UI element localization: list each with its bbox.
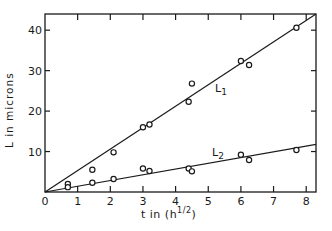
data-point-l1 [246, 62, 251, 67]
data-point-l2 [238, 152, 243, 157]
y-tick-label: 20 [28, 105, 42, 118]
x-axis-label: t in (h1/2) [141, 206, 196, 221]
data-point-l1 [186, 99, 191, 104]
data-point-l2 [246, 157, 251, 162]
x-axis-ticks: 012345678 [42, 14, 310, 208]
x-tick-label: 0 [42, 195, 49, 208]
data-point-l1 [294, 25, 299, 30]
x-tick-label: 5 [205, 195, 212, 208]
y-axis-ticks: 10203040 [28, 24, 316, 158]
y-axis-label: L in microns [3, 72, 15, 148]
data-point-l2 [111, 176, 116, 181]
x-tick-label: 8 [303, 195, 310, 208]
y-tick-label: 40 [28, 24, 42, 37]
data-point-l1 [189, 81, 194, 86]
data-point-l1 [111, 150, 116, 155]
data-point-l1 [238, 58, 243, 63]
series-label-l1: L1 [215, 82, 227, 97]
x-tick-label: 2 [107, 195, 114, 208]
data-point-l2 [65, 185, 70, 190]
fit-lines [45, 14, 316, 192]
series-label-l2: L2 [212, 146, 224, 161]
y-tick-label: 10 [28, 146, 42, 159]
chart-container: 10203040 012345678 L1L2 L in microns t i… [0, 0, 332, 231]
series-labels: L1L2 [212, 82, 227, 161]
data-point-l2 [189, 169, 194, 174]
x-tick-label: 3 [139, 195, 146, 208]
x-axis-label-text: t in (h1/2) [141, 206, 196, 221]
data-point-l1 [147, 122, 152, 127]
data-point-l1 [140, 125, 145, 130]
y-tick-label: 30 [28, 65, 42, 78]
data-point-l2 [147, 168, 152, 173]
x-tick-label: 7 [270, 195, 277, 208]
fit-line-l1 [45, 14, 316, 192]
data-point-l1 [90, 167, 95, 172]
x-tick-label: 6 [237, 195, 244, 208]
fit-line-l2 [45, 144, 316, 192]
data-point-l2 [90, 180, 95, 185]
data-point-l2 [140, 166, 145, 171]
data-point-l2 [294, 147, 299, 152]
data-points [65, 25, 299, 190]
scatter-plot: 10203040 012345678 L1L2 L in microns t i… [0, 0, 332, 231]
x-tick-label: 1 [74, 195, 81, 208]
